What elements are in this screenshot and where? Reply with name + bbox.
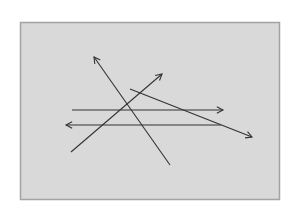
gray-panel: [21, 23, 280, 200]
arrow-diagram: [0, 0, 295, 217]
